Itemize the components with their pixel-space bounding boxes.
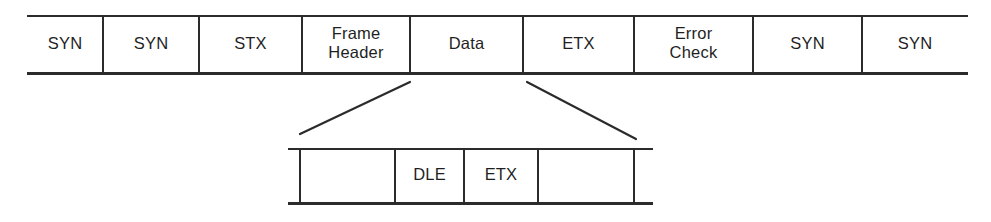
top-frame-row: SYNSYNSTXFrameHeaderDataETXErrorCheckSYN… xyxy=(27,15,968,74)
cell-label-line: SYN xyxy=(48,34,83,52)
cell-label-frame-header-3: FrameHeader xyxy=(328,24,384,61)
expansion-connectors xyxy=(300,82,636,139)
cell-label-stx-2: STX xyxy=(234,34,267,52)
cell-label-line: ETX xyxy=(562,34,595,52)
cell-label-line: Check xyxy=(670,43,718,61)
cell-label-etx-2: ETX xyxy=(485,165,518,183)
cell-label-dle-1: DLE xyxy=(413,165,446,183)
cell-label-line: ETX xyxy=(485,165,518,183)
top-frame-labels: SYNSYNSTXFrameHeaderDataETXErrorCheckSYN… xyxy=(48,24,933,61)
cell-label-etx-5: ETX xyxy=(562,34,595,52)
cell-label-line: Error xyxy=(675,24,713,42)
cell-label-line: STX xyxy=(234,34,267,52)
cell-label-syn-8: SYN xyxy=(898,34,933,52)
frame-structure-diagram: SYNSYNSTXFrameHeaderDataETXErrorCheckSYN… xyxy=(0,0,991,222)
cell-label-line: SYN xyxy=(134,34,169,52)
cell-label-line: SYN xyxy=(790,34,825,52)
detail-row-labels: DLEETX xyxy=(413,165,517,183)
cell-label-error-check-6: ErrorCheck xyxy=(670,24,718,61)
cell-label-syn-7: SYN xyxy=(790,34,825,52)
left-expansion-connector xyxy=(300,82,410,134)
data-field-expansion-row: DLEETX xyxy=(288,148,653,204)
cell-label-line: Data xyxy=(449,34,485,52)
cell-label-data-4: Data xyxy=(449,34,485,52)
diagram-canvas: SYNSYNSTXFrameHeaderDataETXErrorCheckSYN… xyxy=(0,0,991,222)
cell-label-line: Frame xyxy=(332,24,381,42)
cell-label-syn-0: SYN xyxy=(48,34,83,52)
cell-label-syn-1: SYN xyxy=(134,34,169,52)
cell-label-line: DLE xyxy=(413,165,446,183)
cell-label-line: Header xyxy=(328,43,384,61)
cell-label-line: SYN xyxy=(898,34,933,52)
right-expansion-connector xyxy=(527,82,636,139)
